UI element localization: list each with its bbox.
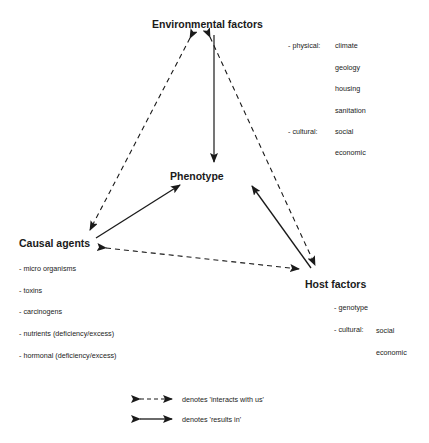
env-cultural-label: - cultural: — [288, 127, 318, 136]
node-phenotype: Phenotype — [170, 170, 224, 182]
causal-item: - toxins — [19, 286, 42, 295]
legend-dashed-label: denotes 'interacts with us' — [182, 395, 264, 404]
legend-solid-label: denotes 'results in' — [182, 415, 241, 424]
causal-item: - carcinogens — [19, 307, 62, 316]
env-physical-item: housing — [335, 84, 360, 93]
causal-item: - nutrients (deficiency/excess) — [19, 329, 114, 338]
node-causal-agents: Causal agents — [19, 237, 90, 249]
env-physical-label: - physical: — [288, 41, 320, 50]
node-host-factors: Host factors — [305, 278, 366, 290]
arrow-environment-causal-interaction — [90, 38, 190, 230]
node-environmental-factors: Environmental factors — [152, 18, 263, 30]
env-physical-item: climate — [335, 41, 358, 50]
host-cultural-item: social — [376, 326, 394, 335]
arrow-environment-host-interaction — [210, 37, 315, 265]
host-cultural-item: economic — [376, 348, 407, 357]
arrow-causal-host-interaction — [106, 248, 299, 269]
env-physical-item: geology — [335, 63, 360, 72]
env-cultural-item: social — [335, 127, 353, 136]
env-physical-item: sanitation — [335, 106, 366, 115]
arrow-causal-to-phenotype — [96, 185, 180, 238]
arrow-host-to-phenotype — [252, 186, 311, 268]
causal-item: - hormonal (deficiency/excess) — [19, 351, 116, 360]
causal-item: - micro organisms — [19, 264, 76, 273]
host-genotype: - genotype — [334, 303, 368, 312]
arrows-layer — [0, 0, 429, 443]
host-cultural-label: - cultural: — [334, 325, 364, 334]
env-cultural-item: economic — [335, 148, 366, 157]
